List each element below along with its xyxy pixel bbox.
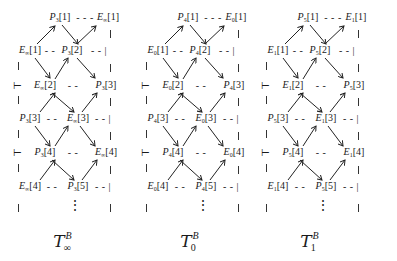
border-bar <box>358 64 359 72</box>
border-bar <box>110 132 111 140</box>
dashed-line: - - <box>293 45 304 57</box>
node-P-5: P5[5] <box>316 180 337 191</box>
tee-icon: ⊢ <box>141 147 151 159</box>
border-bar <box>238 30 239 38</box>
node-E-4-right: E∞[4] <box>95 146 117 157</box>
tee-icon: ⊢ <box>261 80 271 92</box>
node-P-3: P4[3] <box>148 112 169 123</box>
dashed-line: - - <box>45 45 56 57</box>
border-bar <box>110 64 111 72</box>
node-P-2: P4[2] <box>190 44 211 55</box>
dashed-line: - - <box>316 80 327 92</box>
tee-icon: ⊢ <box>261 147 271 159</box>
node-E-4-right: E0[4] <box>224 146 245 157</box>
border-bar <box>266 164 267 172</box>
node-P-1: P3[1] <box>50 11 71 22</box>
border-bar <box>238 166 239 174</box>
dashed-line: - - - <box>204 12 222 24</box>
dashed-line: - - | <box>339 45 355 57</box>
dashed-line: - - <box>196 147 207 159</box>
node-E-4-right: E1[4] <box>344 146 365 157</box>
border-bar <box>146 96 147 104</box>
dashed-line: - - | <box>343 113 359 125</box>
node-E-1-top: E1[1] <box>346 11 367 22</box>
dashed-line: - - <box>173 45 184 57</box>
border-bar <box>110 98 111 106</box>
border-bar <box>146 164 147 172</box>
node-P-4: P4[4] <box>163 146 184 157</box>
border-bar <box>110 204 111 212</box>
border-bar <box>18 96 19 104</box>
node-P-3-right: P5[3] <box>344 79 365 90</box>
node-E-4: E1[4] <box>268 180 289 191</box>
diagram-caption: TB0 <box>180 230 195 253</box>
dashed-line: - - <box>175 181 186 193</box>
vdots-icon: ⋮ <box>316 198 330 212</box>
dashed-line: - - | <box>223 113 239 125</box>
border-bar <box>358 98 359 106</box>
dashed-line: - - <box>47 181 58 193</box>
node-P-3: P5[3] <box>268 112 289 123</box>
border-bar <box>18 204 19 212</box>
border-bar <box>238 64 239 72</box>
node-E-2: E∞[2] <box>34 79 56 90</box>
node-P-5: P3[5] <box>68 180 89 191</box>
node-P-4: P5[4] <box>283 146 304 157</box>
node-E-4: E∞[4] <box>19 180 41 191</box>
node-P-2: P5[2] <box>310 44 331 55</box>
node-E-1: E0[1] <box>148 44 169 55</box>
tee-icon: ⊢ <box>141 80 151 92</box>
tee-icon: ⊢ <box>13 80 23 92</box>
node-E-1: E1[1] <box>268 44 289 55</box>
dashed-line: - - | <box>343 181 359 193</box>
dashed-line: - - <box>47 113 58 125</box>
node-P-1: P5[1] <box>298 11 319 22</box>
node-E-3: E1[3] <box>316 112 337 123</box>
vdots-icon: ⋮ <box>196 198 210 212</box>
auslander-reiten-quiver-T_1: P5[1]- - -E1[1]E1[1]- -P5[2]- - |⊢E1[2]-… <box>248 0 380 261</box>
auslander-reiten-quiver-T_0: P4[1]- - -E0[1]E0[1]- -P4[2]- - |⊢E0[2]-… <box>128 0 260 261</box>
border-bar <box>266 96 267 104</box>
dashed-line: - - <box>175 113 186 125</box>
border-bar <box>18 164 19 172</box>
border-bar <box>266 204 267 212</box>
dashed-line: - - | <box>95 113 111 125</box>
dashed-line: - - <box>316 147 327 159</box>
border-bar <box>238 204 239 212</box>
dashed-line: - - <box>196 80 207 92</box>
border-bar <box>266 130 267 138</box>
border-bar <box>146 130 147 138</box>
node-P-1: P4[1] <box>178 11 199 22</box>
diagram-caption: TB∞ <box>53 230 71 253</box>
dashed-line: - - <box>295 113 306 125</box>
border-bar <box>110 166 111 174</box>
border-bar <box>238 132 239 140</box>
node-P-3-right: P3[3] <box>96 79 117 90</box>
node-E-4: E0[4] <box>148 180 169 191</box>
arrows <box>0 0 132 261</box>
border-bar <box>110 30 111 38</box>
arrows <box>248 0 380 261</box>
dashed-line: - - - <box>324 12 342 24</box>
border-bar <box>358 132 359 140</box>
node-E-3: E∞[3] <box>67 112 89 123</box>
node-E-3: E0[3] <box>196 112 217 123</box>
dashed-line: - - | <box>223 181 239 193</box>
border-bar <box>146 62 147 70</box>
node-E-1-top: E∞[1] <box>97 11 119 22</box>
dashed-line: - - | <box>219 45 235 57</box>
arrows <box>128 0 260 261</box>
dashed-line: - - <box>295 181 306 193</box>
auslander-reiten-quiver-T_inf: P3[1]- - -E∞[1]E∞[1]- -P3[2]- - |⊢E∞[2]-… <box>0 0 132 261</box>
tee-icon: ⊢ <box>13 147 23 159</box>
border-bar <box>238 98 239 106</box>
node-P-5: P4[5] <box>196 180 217 191</box>
node-E-2: E1[2] <box>283 79 304 90</box>
border-bar <box>266 62 267 70</box>
border-bar <box>146 204 147 212</box>
border-bar <box>358 204 359 212</box>
dashed-line: - - | <box>95 181 111 193</box>
node-P-4: P3[4] <box>35 146 56 157</box>
dashed-line: - - <box>68 147 79 159</box>
node-P-3: P3[3] <box>20 112 41 123</box>
